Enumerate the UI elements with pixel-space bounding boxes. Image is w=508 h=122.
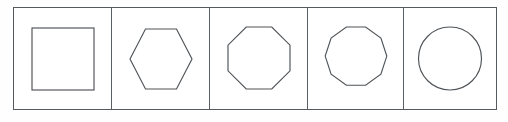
decagon-shape-icon <box>318 20 394 98</box>
hexagon-shape-icon <box>123 20 199 98</box>
shape-table <box>13 7 497 110</box>
shape-cell-square[interactable] <box>14 8 112 109</box>
square-shape-icon <box>25 20 101 98</box>
shape-cell-hexagon[interactable] <box>112 8 210 109</box>
circle-shape-icon <box>412 20 488 98</box>
shape-cell-circle[interactable] <box>404 8 496 109</box>
figure-root <box>0 0 508 122</box>
shape-cell-octagon[interactable] <box>210 8 308 109</box>
shape-cell-decagon[interactable] <box>308 8 404 109</box>
octagon-shape-icon <box>221 20 297 98</box>
